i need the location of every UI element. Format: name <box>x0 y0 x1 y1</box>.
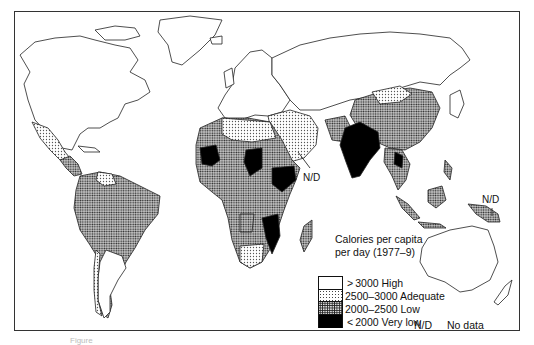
borneo <box>428 186 446 208</box>
map-title-line2: per day (1977–9) <box>335 246 423 259</box>
figure-caption: Figure <box>70 336 93 345</box>
nd-annotation-gulf: N/D <box>303 172 320 183</box>
legend-label-low: 2000–2500 Low <box>345 303 420 315</box>
sumatra <box>396 196 420 220</box>
map-title: Calories per capita per day (1977–9) <box>335 233 423 259</box>
new-zealand <box>494 280 512 305</box>
nd-annotation-new-guinea: N/D <box>482 194 499 205</box>
no-data-label: No data <box>447 319 484 331</box>
canadian-archipelago <box>95 26 140 40</box>
legend-label-high: > 3000 High <box>347 277 403 289</box>
java <box>418 222 446 228</box>
no-data-abbr: N/D <box>414 319 432 331</box>
south-africa <box>240 244 264 268</box>
india <box>340 122 380 178</box>
north-africa <box>222 118 276 142</box>
swatch-very-low <box>319 315 342 329</box>
no-data-legend: N/D No data <box>414 319 484 331</box>
central-america <box>60 156 82 176</box>
caribbean <box>78 146 100 152</box>
great-britain <box>224 68 234 88</box>
swatch-adequate <box>319 290 342 303</box>
philippines <box>444 160 452 180</box>
angola <box>240 214 254 232</box>
legend-label-adequate: 2500–3000 Adequate <box>345 290 445 302</box>
world-map <box>0 0 534 345</box>
australia <box>420 226 498 292</box>
new-guinea <box>468 204 500 222</box>
swatch-high <box>319 277 342 290</box>
legend-swatches <box>318 276 343 328</box>
argentina <box>98 250 126 318</box>
map-title-line1: Calories per capita <box>335 233 423 246</box>
swatch-low <box>319 302 342 315</box>
legend-label-very-low: < 2000 Very low <box>347 316 421 328</box>
japan <box>450 90 464 118</box>
south-america <box>74 172 160 318</box>
madagascar <box>300 220 312 252</box>
